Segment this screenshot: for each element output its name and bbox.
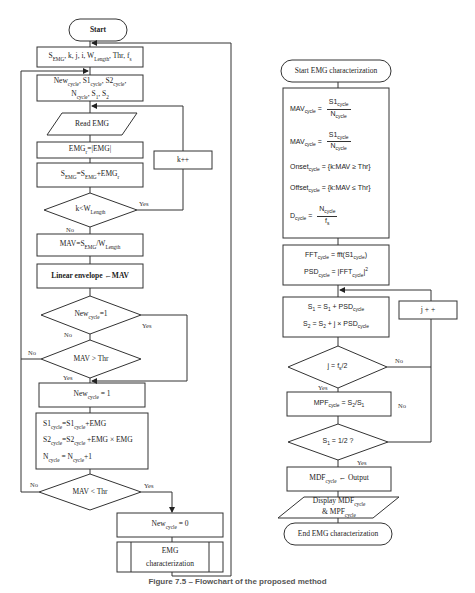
label-yes: Yes: [63, 374, 72, 381]
j-increment-node: j + +: [399, 301, 457, 319]
set-new-cycle-node: Newcycle = 1: [39, 383, 145, 407]
label-no: No: [398, 402, 406, 409]
mav-gt-thr-decision: MAV > Thr: [41, 340, 141, 378]
end-characterization-node: End EMG characterization: [284, 523, 392, 545]
label-no: No: [66, 226, 74, 233]
label-no: No: [64, 331, 72, 338]
mav-lt-thr-decision: MAV < Thr: [39, 474, 141, 510]
sum-node: SEMG=SEMG+EMGr: [37, 163, 143, 187]
metrics-node: MAVcycle = S1cycleNcycle MAVcycle = S1cy…: [283, 88, 389, 238]
label-yes: Yes: [144, 482, 153, 489]
j-decision: j = fs/2: [288, 346, 387, 388]
start-node: Start: [69, 19, 127, 41]
linear-envelope-node: Linear envelope ←MAV: [37, 264, 143, 288]
label-yes: Yes: [357, 459, 366, 466]
reset-new-cycle-node: Newcycle = 0: [117, 513, 223, 537]
read-emg-node: Read EMG: [47, 113, 137, 135]
accumulate-node: S1cycle=S1cycle+EMG S2cycle=S2cycle +EMG…: [36, 413, 148, 469]
label-yes: Yes: [318, 384, 327, 391]
emg-characterization-subprocess: EMG characterization: [131, 542, 209, 572]
mpf-node: MPFcycle = S2/S1: [287, 392, 391, 416]
label-no: No: [395, 357, 403, 364]
init-params-node: SEMG, k, j, i, WLength, Thr, fs: [37, 47, 143, 67]
mav-node: MAV=SEMG/WLength: [37, 234, 143, 256]
display-node: Display MDFcycle & MPFcycle: [290, 497, 388, 518]
start-characterization-node: Start EMG characterization: [281, 60, 391, 82]
figure-caption: Figure 7.5 – Flowchart of the proposed m…: [0, 577, 475, 586]
rectify-node: EMGr=|EMG|: [37, 142, 143, 158]
window-decision: k<WLength: [44, 193, 137, 227]
label-yes: Yes: [142, 322, 151, 329]
label-no: No: [28, 349, 36, 356]
label-no: No: [30, 481, 38, 488]
label-yes: Yes: [139, 200, 148, 207]
spectral-sums-node: S1 = S1 + PSDcycle S2 = S2 + j × PSDcycl…: [283, 297, 389, 337]
k-increment-node: k++: [154, 151, 212, 169]
init-cycle-node: Newcycle, S1cycle, S2cycle, Ncycle, S1, …: [37, 75, 143, 101]
mdf-node: MDFcycle ← Output: [287, 467, 391, 491]
fft-node: FFTcycle = fft(S1cycle) PSDcycle = |FFTc…: [283, 245, 389, 285]
new-cycle-decision: Newcycle=1: [41, 296, 141, 334]
s1-decision: S1 = 1/2 ?: [288, 424, 388, 460]
